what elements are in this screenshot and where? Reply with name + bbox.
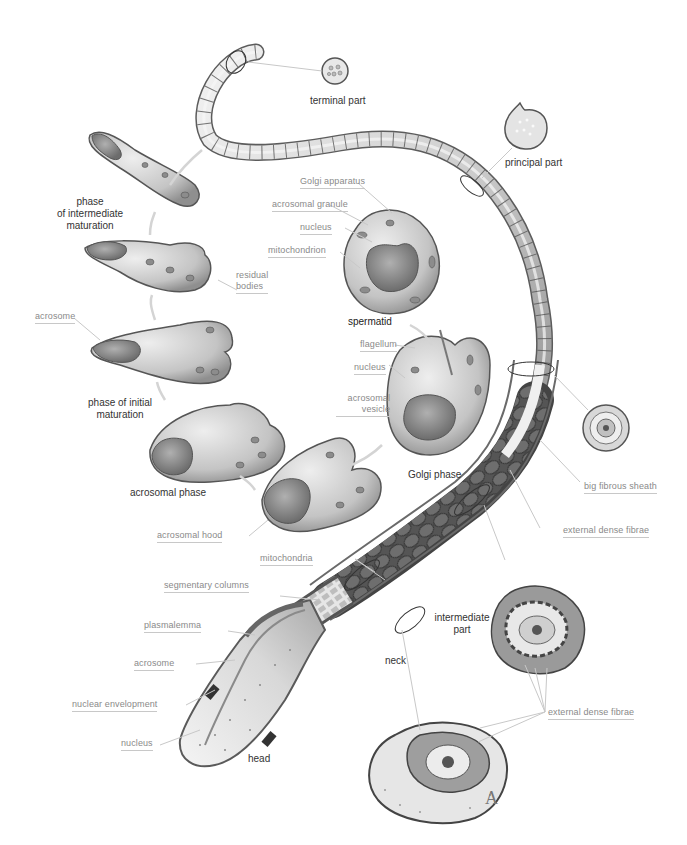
label-flagellum: flagellum (360, 339, 397, 352)
label-mitochondrion: mitochondrion (268, 245, 326, 258)
title-neck: neck (385, 655, 406, 667)
label-nucleus-head: nucleus (121, 738, 153, 751)
title-head: head (248, 753, 270, 765)
label-acrosomal-vesicle: acrosomal vesicle (336, 393, 390, 417)
label-acrosomal-hood: acrosomal hood (157, 530, 222, 543)
sperm-head (180, 600, 325, 766)
label-golgi-apparatus: Golgi apparatus (300, 176, 365, 189)
cross-section-terminal (248, 58, 348, 84)
cell-golgi-phase (387, 330, 490, 455)
label-nuclear-envelopment: nuclear envelopment (72, 699, 157, 712)
label-external-dense-fibrae-2: external dense fibrae (548, 707, 634, 720)
label-plasmalemma: plasmalemma (144, 620, 201, 633)
title-phase-intermediate-maturation: phase of intermediate maturation (55, 196, 125, 232)
title-phase-initial-maturation: phase of initial maturation (80, 397, 160, 421)
cell-initial-maturation (91, 321, 232, 383)
title-golgi-phase: Golgi phase (408, 469, 461, 481)
label-mitochondria: mitochondria (260, 553, 313, 566)
label-acrosome-initial: acrosome (35, 311, 75, 324)
panel-letter: A (485, 788, 498, 809)
title-terminal-part: terminal part (310, 95, 366, 107)
label-segmentary-columns: segmentary columns (164, 580, 249, 593)
label-residual-bodies: residual bodies (236, 270, 268, 294)
title-acrosomal-phase: acrosomal phase (130, 487, 206, 499)
cross-section-intermediate (492, 586, 585, 674)
label-big-fibrous-sheath: big fibrous sheath (584, 481, 657, 494)
cell-acrosomal-phase (150, 404, 285, 483)
cell-intermediate-maturation-lower (85, 241, 211, 292)
label-nucleus-golgi: nucleus (354, 362, 386, 375)
label-external-dense-fibrae-1: external dense fibrae (563, 525, 649, 538)
title-principal-part: principal part (505, 157, 562, 169)
label-acrosome-head: acrosome (134, 658, 174, 671)
label-nucleus-spermatid: nucleus (300, 222, 332, 235)
cross-section-fibrous-sheath (554, 375, 629, 451)
title-intermediate-part: intermediate part (432, 612, 492, 636)
cell-spermatid (344, 210, 439, 314)
spermatogenesis-diagram: terminal part principal part phase of in… (0, 0, 687, 845)
label-acrosomal-granule: acrosomal granule (272, 199, 348, 212)
title-spermatid: spermatid (348, 316, 392, 328)
